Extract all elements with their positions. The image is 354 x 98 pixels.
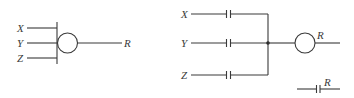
input-label-x: X <box>16 22 25 34</box>
contact-label-r: R <box>323 76 331 88</box>
right-ladder-diagram: X Y Z R <box>180 8 340 93</box>
logic-diagram-canvas: X Y Z R X Y Z <box>0 0 354 98</box>
coil-r-icon <box>295 33 315 53</box>
contact-y-icon <box>227 39 231 47</box>
rung-label-y: Y <box>181 37 189 49</box>
rung-label-x: X <box>180 8 189 20</box>
input-label-z: Z <box>17 52 24 64</box>
output-label-r: R <box>123 37 131 49</box>
coil-label-r: R <box>316 29 324 41</box>
contact-z-icon <box>227 71 231 79</box>
rung-label-z: Z <box>181 69 188 81</box>
left-gate-diagram: X Y Z R <box>16 22 131 64</box>
input-label-y: Y <box>17 37 25 49</box>
contact-r-icon <box>317 85 321 93</box>
gate-circle-icon <box>58 33 78 53</box>
contact-x-icon <box>227 10 231 18</box>
